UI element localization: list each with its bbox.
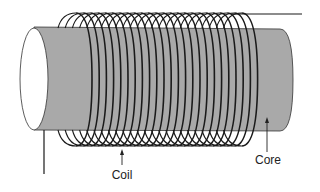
core-end-face: [20, 28, 48, 130]
core-label: Core: [255, 153, 281, 167]
coil-label: Coil: [112, 168, 133, 182]
coil-arrowhead-icon: [120, 149, 124, 155]
